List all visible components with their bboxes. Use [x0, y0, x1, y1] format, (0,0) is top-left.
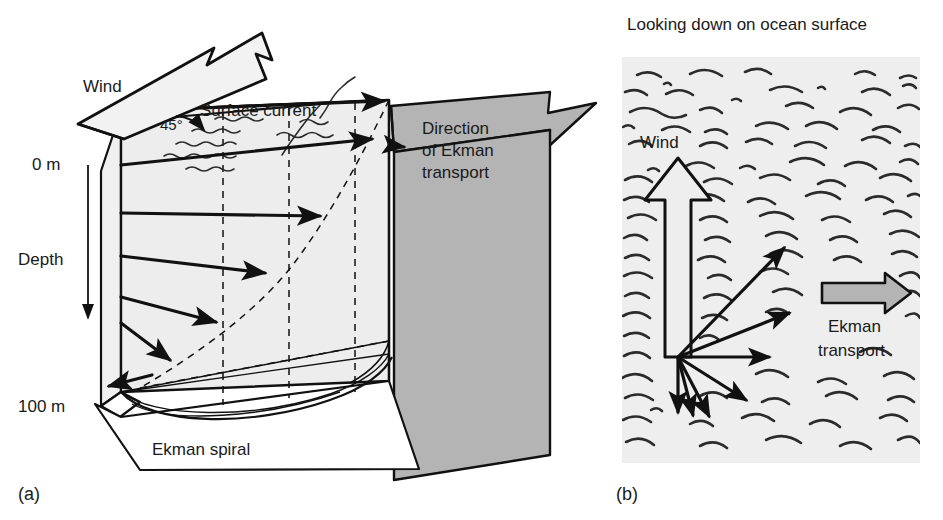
depth-top-label: 0 m	[32, 155, 60, 174]
ekman-transport-label-line2: transport	[818, 341, 885, 360]
ekman-spiral-label: Ekman spiral	[152, 440, 250, 459]
direction-label-line2: of Ekman	[422, 141, 494, 160]
direction-label-line1: Direction	[422, 119, 489, 138]
wind-label-a: Wind	[83, 77, 122, 96]
wind-label-b: Wind	[640, 133, 679, 152]
direction-label-line3: transport	[422, 163, 489, 182]
ekman-transport-label-line1: Ekman	[828, 317, 881, 336]
panel-b-title: Looking down on ocean surface	[627, 15, 867, 34]
depth-axis-label: Depth	[18, 250, 63, 269]
angle-label: 45°	[160, 116, 183, 133]
water-block	[95, 100, 419, 470]
ekman-figure: Direction of Ekman transport	[0, 0, 943, 520]
ekman-diagram-svg: Direction of Ekman transport	[0, 0, 943, 520]
panel-b: Looking down on ocean surface	[616, 15, 922, 504]
depth-bottom-label: 100 m	[18, 397, 65, 416]
panel-a-caption: (a)	[18, 484, 40, 504]
spiral-arrow-side	[389, 145, 404, 147]
surface-current-label: Surface current	[200, 101, 316, 120]
panel-b-caption: (b)	[616, 484, 638, 504]
